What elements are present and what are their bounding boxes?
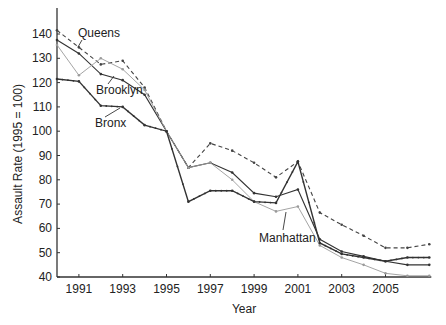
axes: 4050607080901001101201301401991199319951… <box>32 8 431 296</box>
y-tick-label: 110 <box>33 100 52 114</box>
x-axis-label: Year <box>232 302 256 316</box>
y-axis-label: Assault Rate (1995 = 100) <box>11 84 25 224</box>
y-tick-label: 70 <box>39 197 53 211</box>
y-tick-label: 90 <box>39 149 53 163</box>
x-tick-label: 1997 <box>197 282 224 296</box>
y-tick-label: 50 <box>39 246 53 260</box>
y-tick-label: 80 <box>39 173 53 187</box>
y-tick-label: 100 <box>32 124 52 138</box>
label-manhattan: Manhattan <box>259 231 316 245</box>
y-tick-label: 120 <box>32 76 52 90</box>
series-labels: QueensBrooklynBronxManhattan <box>78 26 316 245</box>
x-tick-label: 2005 <box>372 282 399 296</box>
y-tick-label: 60 <box>39 221 53 235</box>
label-bronx: Bronx <box>95 116 126 130</box>
series-manhattan <box>57 45 429 276</box>
x-tick-label: 1991 <box>66 282 93 296</box>
x-tick-label: 1993 <box>109 282 136 296</box>
y-tick-label: 130 <box>32 51 52 65</box>
series-brooklyn <box>57 40 429 265</box>
x-tick-label: 2001 <box>285 282 312 296</box>
x-tick-label: 1995 <box>153 282 180 296</box>
series-queens <box>57 30 429 247</box>
series-lines <box>56 29 431 277</box>
y-tick-label: 140 <box>32 27 52 41</box>
x-tick-label: 2003 <box>328 282 355 296</box>
line-chart: 4050607080901001101201301401991199319951… <box>0 0 446 325</box>
x-tick-label: 1999 <box>241 282 268 296</box>
label-brooklyn: Brooklyn <box>96 83 143 97</box>
series-bronx <box>57 79 429 261</box>
label-queens: Queens <box>78 26 120 40</box>
y-tick-label: 40 <box>39 270 53 284</box>
